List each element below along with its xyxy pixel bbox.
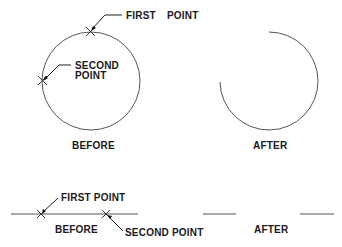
bottom-before-caption: BEFORE <box>55 224 98 235</box>
before-circle <box>42 32 140 130</box>
line-first-point-leader <box>42 198 58 214</box>
after-arc <box>220 32 318 130</box>
top-after-group: AFTER <box>220 32 318 151</box>
line-first-point-label: FIRST POINT <box>61 192 125 203</box>
first-point-label: FIRST <box>126 10 156 21</box>
top-after-caption: AFTER <box>253 140 288 151</box>
line-second-point-label: SECOND POINT <box>125 227 204 238</box>
second-point-leader <box>43 65 71 81</box>
first-point-label-2: POINT <box>167 10 199 21</box>
bottom-before-group: FIRST POINT SECOND POINT BEFORE <box>11 192 204 238</box>
first-point-leader <box>91 15 122 31</box>
top-before-caption: BEFORE <box>72 140 115 151</box>
bottom-after-group: AFTER <box>203 214 334 235</box>
second-point-label-line2: POINT <box>75 70 107 81</box>
top-before-group: FIRST POINT SECOND POINT BEFORE <box>38 10 199 151</box>
line-second-point-leader <box>107 215 123 231</box>
bottom-after-caption: AFTER <box>254 224 289 235</box>
break-command-diagram: FIRST POINT SECOND POINT BEFORE AFTER FI… <box>0 0 342 247</box>
